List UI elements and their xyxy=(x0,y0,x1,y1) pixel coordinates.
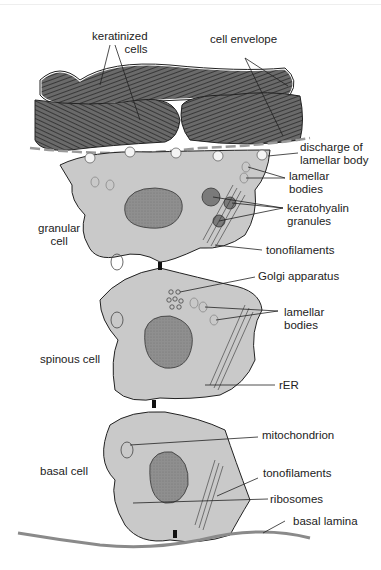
label-tonofilaments-top: tonofilaments xyxy=(266,244,334,257)
label-golgi-apparatus: Golgi apparatus xyxy=(258,270,339,283)
label-lamellar-bodies-top: lamellar bodies xyxy=(289,170,329,196)
label-tonofilaments-bottom: tonofilaments xyxy=(263,467,331,480)
basal-nucleus xyxy=(150,452,188,503)
granular-nucleus xyxy=(125,188,183,228)
spinous-nucleus xyxy=(145,316,193,368)
label-line: keratinized xyxy=(92,30,148,43)
epidermis-diagram xyxy=(0,0,381,570)
label-cell-envelope: cell envelope xyxy=(210,33,277,46)
label-line: keratohyalin xyxy=(287,202,349,215)
label-mitochondrion: mitochondrion xyxy=(262,429,334,442)
label-line: lamellar xyxy=(284,306,324,319)
label-line: lamellar xyxy=(289,170,329,183)
label-spinous-cell: spinous cell xyxy=(40,353,100,366)
label-ribosomes: ribosomes xyxy=(270,493,323,506)
label-line: lamellar body xyxy=(300,154,368,167)
label-keratohyalin-granules: keratohyalin granules xyxy=(287,202,349,228)
label-line: granular xyxy=(38,222,80,235)
label-line: granules xyxy=(287,215,349,228)
keratinized-cells xyxy=(30,64,310,153)
label-keratinized-cells: keratinized cells xyxy=(92,30,148,56)
label-line: bodies xyxy=(284,319,324,332)
label-line: bodies xyxy=(289,183,329,196)
label-granular-cell: granular cell xyxy=(38,222,80,248)
label-lamellar-bodies-mid: lamellar bodies xyxy=(284,306,324,332)
label-discharge: discharge of lamellar body xyxy=(300,141,368,167)
label-basal-cell: basal cell xyxy=(40,465,88,478)
label-line: discharge of xyxy=(300,141,368,154)
label-basal-lamina: basal lamina xyxy=(293,515,358,528)
label-line: cells xyxy=(92,43,148,56)
label-line: cell xyxy=(38,235,80,248)
label-rer: rER xyxy=(279,379,299,392)
